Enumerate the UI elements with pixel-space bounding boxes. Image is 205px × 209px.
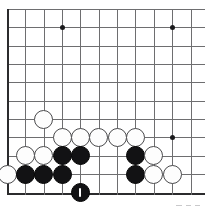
star-point-upper-left — [60, 25, 65, 30]
white-stone-c10-r10[interactable] — [163, 165, 182, 184]
scan-artifact-speck — [186, 205, 191, 206]
black-stone-c8-r9[interactable] — [126, 146, 145, 165]
grid-line-horizontal-6 — [7, 101, 205, 102]
black-stone-c5-r9[interactable] — [71, 146, 90, 165]
black-stone-c4-r9[interactable] — [53, 146, 72, 165]
black-stone-c2-r10[interactable] — [16, 165, 35, 184]
black-stone-c3-r10[interactable] — [34, 165, 53, 184]
white-stone-c2-r9[interactable] — [16, 146, 35, 165]
white-stone-c9-r10[interactable] — [144, 165, 163, 184]
white-stone-c4-r8[interactable] — [53, 128, 72, 147]
black-stone-c8-r10[interactable] — [126, 165, 145, 184]
black-stone-c4-r10[interactable] — [53, 165, 72, 184]
grid-line-horizontal-5 — [7, 82, 205, 83]
white-stone-c7-r8[interactable] — [108, 128, 127, 147]
white-stone-c9-r9[interactable] — [144, 146, 163, 165]
white-stone-c6-r8[interactable] — [89, 128, 108, 147]
white-stone-c3-r7[interactable] — [34, 110, 53, 129]
grid-line-vertical-11 — [191, 9, 192, 195]
go-board[interactable] — [0, 0, 205, 209]
grid-line-vertical-7 — [117, 9, 118, 195]
scan-artifact-speck — [195, 205, 200, 206]
grid-line-horizontal-2 — [7, 27, 205, 28]
grid-line-horizontal-3 — [7, 46, 205, 47]
white-stone-c5-r8[interactable] — [71, 128, 90, 147]
grid-line-vertical-5 — [80, 9, 81, 195]
grid-line-horizontal-4 — [7, 64, 205, 65]
scan-artifact-speck — [176, 205, 182, 206]
white-stone-c1-r10[interactable] — [0, 165, 17, 184]
star-point-upper-right — [170, 25, 175, 30]
white-stone-c8-r8[interactable] — [126, 128, 145, 147]
star-point-lower-right — [170, 135, 175, 140]
grid-line-horizontal-11 — [7, 193, 205, 195]
grid-line-vertical-6 — [99, 9, 100, 195]
white-stone-c3-r9[interactable] — [34, 146, 53, 165]
grid-line-horizontal-1 — [7, 9, 205, 10]
